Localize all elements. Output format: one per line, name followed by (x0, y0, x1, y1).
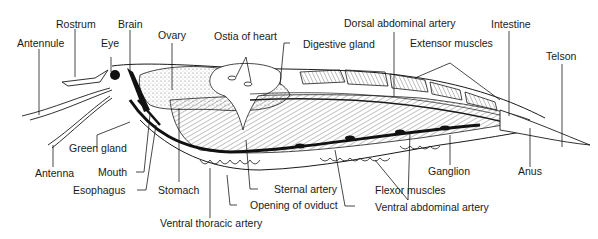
label-ventral-abdominal-artery: Ventral abdominal artery (375, 201, 489, 213)
antennae (22, 88, 112, 148)
label-intestine: Intestine (491, 18, 531, 30)
label-brain: Brain (118, 18, 143, 30)
label-telson: Telson (546, 50, 576, 62)
eye (110, 70, 120, 80)
label-anus: Anus (518, 165, 542, 177)
label-rostrum: Rostrum (56, 18, 96, 30)
label-ovary: Ovary (158, 29, 186, 41)
label-digestive-gland: Digestive gland (303, 38, 375, 50)
label-extensor-muscles: Extensor muscles (410, 37, 493, 49)
label-mouth: Mouth (98, 166, 127, 178)
label-ostia-of-heart: Ostia of heart (214, 30, 277, 42)
label-stomach: Stomach (158, 184, 199, 196)
label-dorsal-abdominal-artery: Dorsal abdominal artery (344, 17, 455, 29)
label-antenna: Antenna (35, 167, 74, 179)
label-ventral-thoracic-artery: Ventral thoracic artery (160, 217, 262, 229)
label-ganglion: Ganglion (428, 165, 470, 177)
rostrum (62, 70, 108, 86)
label-sternal-artery: Sternal artery (274, 183, 337, 195)
label-opening-of-oviduct: Opening of oviduct (250, 199, 338, 211)
label-antennule: Antennule (17, 37, 64, 49)
label-flexor-muscles: Flexor muscles (375, 184, 446, 196)
telson (500, 110, 590, 145)
label-eye: Eye (101, 37, 119, 49)
label-green-gland: Green gland (69, 142, 127, 154)
label-esophagus: Esophagus (73, 184, 126, 196)
